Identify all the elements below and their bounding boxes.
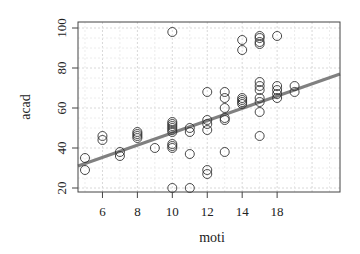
grid-lines (78, 22, 340, 192)
x-axis-label: moti (199, 230, 225, 245)
svg-text:100: 100 (54, 18, 69, 38)
y-axis: 20406080100 (54, 18, 78, 194)
svg-text:20: 20 (54, 182, 69, 195)
svg-text:40: 40 (54, 142, 69, 155)
scatter-plot: 6810121418 20406080100 moti acad (0, 0, 360, 254)
svg-text:12: 12 (201, 204, 214, 219)
svg-text:60: 60 (54, 102, 69, 115)
plot-frame (78, 22, 340, 192)
svg-text:14: 14 (236, 204, 250, 219)
svg-text:80: 80 (54, 62, 69, 75)
svg-text:8: 8 (134, 204, 141, 219)
y-axis-label: acad (18, 94, 33, 120)
svg-text:6: 6 (99, 204, 106, 219)
x-axis: 6810121418 (99, 192, 283, 219)
svg-text:10: 10 (166, 204, 179, 219)
svg-text:18: 18 (271, 204, 284, 219)
